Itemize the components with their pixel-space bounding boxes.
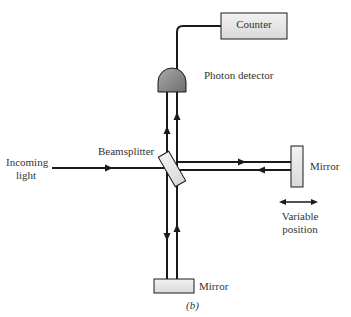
beam-arrows: [105, 112, 265, 241]
counter-label: Counter: [221, 18, 287, 30]
variable-position-line1: Variable: [280, 210, 320, 223]
variable-position-label: Variable position: [280, 210, 320, 236]
double-arrow-icon: [279, 199, 318, 205]
incoming-light-line2: light: [6, 169, 46, 182]
photon-detector-icon: [158, 68, 186, 92]
beamsplitter-label: Beamsplitter: [98, 145, 154, 158]
figure-caption: (b): [186, 299, 199, 312]
mirror-bottom-label: Mirror: [199, 280, 228, 293]
incoming-light-line1: Incoming: [6, 156, 46, 169]
mirror-right: [291, 146, 303, 187]
photon-detector-label: Photon detector: [204, 69, 273, 82]
beam-lines: [52, 92, 291, 279]
variable-position-line2: position: [280, 223, 320, 236]
mirror-right-label: Mirror: [310, 160, 339, 173]
mirror-bottom: [154, 279, 194, 293]
interferometer-diagram: [0, 0, 351, 317]
incoming-light-label: Incoming light: [6, 156, 46, 182]
